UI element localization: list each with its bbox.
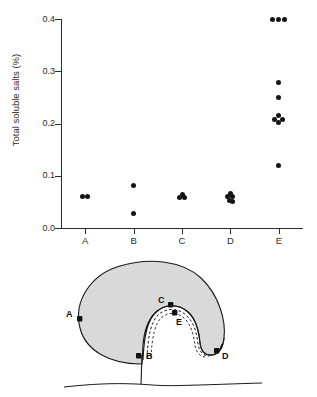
y-tick-label: 0.3 xyxy=(9,67,55,76)
x-tick-mark xyxy=(134,229,135,234)
sample-marker-C xyxy=(168,302,173,307)
diagram-label-B: B xyxy=(146,352,153,361)
sample-marker-E xyxy=(172,310,177,315)
y-tick-mark xyxy=(55,19,61,20)
x-tick-mark xyxy=(85,229,86,234)
y-tick-label-wrap: 0.3 xyxy=(0,67,55,76)
x-tick-mark xyxy=(230,229,231,234)
x-tick-label-b: B xyxy=(122,236,146,246)
y-tick-label-wrap: 0.1 xyxy=(0,171,55,180)
y-tick-label-wrap: 0.2 xyxy=(0,119,55,128)
y-tick-label: 0.2 xyxy=(9,119,55,128)
y-axis-line xyxy=(61,19,62,229)
ground-line xyxy=(64,383,262,387)
figure: Total soluble salts (%) 0.00.10.20.30.4 … xyxy=(0,0,317,397)
data-point xyxy=(276,163,281,168)
data-point xyxy=(230,199,235,204)
dot-plot-panel: Total soluble salts (%) 0.00.10.20.30.4 … xyxy=(0,0,317,250)
x-tick-label-c: C xyxy=(170,236,194,246)
y-tick-mark xyxy=(55,228,61,229)
data-point xyxy=(131,183,136,188)
sample-marker-B xyxy=(136,353,141,358)
data-point xyxy=(85,194,90,199)
data-point xyxy=(182,195,187,200)
y-tick-label-wrap: 0.4 xyxy=(0,15,55,24)
data-point xyxy=(270,17,275,22)
x-tick-mark xyxy=(279,229,280,234)
y-tick-mark xyxy=(55,124,61,125)
data-point xyxy=(276,17,281,22)
schematic-panel: A B C D E xyxy=(0,252,317,397)
data-point xyxy=(131,211,136,216)
y-tick-mark xyxy=(55,71,61,72)
x-tick-label-a: A xyxy=(73,236,97,246)
specimen-diagram xyxy=(0,252,317,397)
diagram-label-A: A xyxy=(66,310,73,319)
data-point xyxy=(276,80,281,85)
y-tick-label-wrap: 0.0 xyxy=(0,224,55,233)
x-tick-label-d: D xyxy=(218,236,242,246)
sample-marker-D xyxy=(214,348,219,353)
diagram-label-E: E xyxy=(176,318,182,327)
y-tick-mark xyxy=(55,176,61,177)
x-tick-mark xyxy=(182,229,183,234)
y-tick-label: 0.1 xyxy=(9,171,55,180)
sample-marker-A xyxy=(77,316,82,321)
y-axis-title: Total soluble salts (%) xyxy=(11,20,21,180)
data-point xyxy=(280,117,285,122)
specimen-body-shape xyxy=(79,261,225,364)
data-point xyxy=(282,17,287,22)
diagram-label-C: C xyxy=(158,296,165,305)
x-tick-label-e: E xyxy=(267,236,291,246)
y-tick-label: 0.4 xyxy=(9,15,55,24)
y-tick-label: 0.0 xyxy=(9,224,55,233)
data-point xyxy=(276,95,281,100)
data-point xyxy=(276,120,281,125)
diagram-label-D: D xyxy=(222,352,229,361)
